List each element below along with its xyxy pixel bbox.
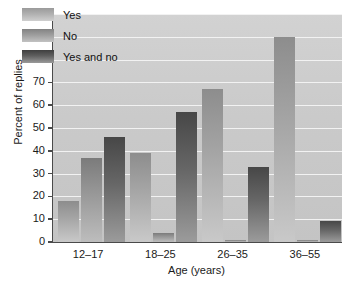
y-axis-tick — [48, 127, 53, 129]
y-axis-tick-label: 60 — [33, 99, 45, 110]
gridline — [53, 151, 342, 152]
gridline — [53, 82, 342, 83]
legend-label: Yes and no — [63, 51, 118, 63]
legend-item: Yes — [22, 4, 202, 25]
y-axis-tick — [48, 82, 53, 84]
x-axis-category-label: 36–55 — [269, 248, 341, 260]
bar — [297, 240, 318, 242]
bar-chart-figure: 0102030405060708090100 Percent of replie… — [0, 0, 359, 283]
bar — [248, 167, 269, 242]
gridline — [53, 105, 342, 106]
gridline — [53, 128, 342, 129]
y-axis-tick-label: 10 — [33, 213, 45, 224]
legend-swatch — [22, 50, 54, 63]
y-axis-tick-label: 40 — [33, 145, 45, 156]
y-axis-tick — [48, 150, 53, 152]
x-axis-category-label: 12–17 — [52, 248, 124, 260]
legend-swatch — [22, 29, 54, 42]
bar — [104, 137, 125, 242]
y-axis-tick-label: 70 — [33, 76, 45, 87]
bar — [202, 89, 223, 242]
legend-item: Yes and no — [22, 46, 202, 67]
legend-label: No — [63, 30, 77, 42]
y-axis-tick — [48, 241, 53, 243]
y-axis-tick — [48, 104, 53, 106]
legend-swatch — [22, 8, 54, 21]
bar — [320, 221, 341, 242]
bar — [81, 158, 102, 242]
y-axis-tick-label: 30 — [33, 168, 45, 179]
legend: YesNoYes and no — [22, 4, 202, 67]
bar — [274, 37, 295, 242]
y-axis-tick-label: 20 — [33, 190, 45, 201]
y-axis-tick-label: 50 — [33, 122, 45, 133]
bar — [176, 112, 197, 242]
y-axis-tick — [48, 196, 53, 198]
bar — [225, 240, 246, 242]
y-axis-tick — [48, 218, 53, 220]
bar — [153, 233, 174, 242]
y-axis-tick-label: 0 — [39, 236, 45, 247]
legend-item: No — [22, 25, 202, 46]
legend-label: Yes — [63, 9, 81, 21]
bar — [130, 153, 151, 242]
x-axis-category-label: 18–25 — [124, 248, 196, 260]
x-axis-category-label: 26–35 — [197, 248, 269, 260]
y-axis-tick — [48, 173, 53, 175]
bar — [58, 201, 79, 242]
x-axis-title: Age (years) — [52, 264, 341, 276]
